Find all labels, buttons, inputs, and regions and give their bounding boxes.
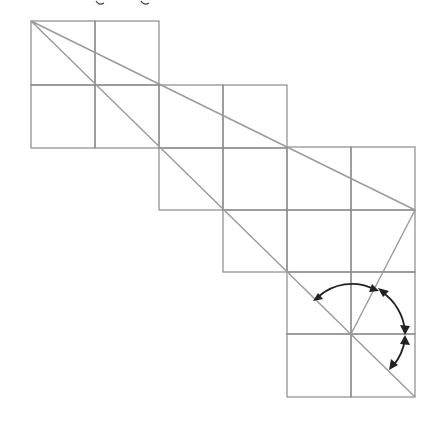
grid-cell: [351, 210, 415, 272]
main-diagonal-line: [31, 21, 415, 397]
grid-cell: [287, 210, 351, 272]
grid-cell: [287, 147, 351, 210]
grid-cell: [223, 148, 287, 210]
geometry-diagram: [0, 0, 434, 421]
grid-cell: [159, 148, 223, 210]
grid-cell: [31, 85, 95, 148]
grid-cell: [287, 334, 351, 397]
angle-marks: [313, 284, 410, 370]
grid-cell: [351, 147, 415, 210]
grid-cell: [95, 21, 159, 85]
angle-arc-2: [382, 292, 405, 331]
grid-cell: [95, 85, 159, 148]
grid-cell: [351, 272, 415, 334]
diagonal-lines: [31, 21, 415, 397]
arrowhead-icon: [369, 284, 379, 292]
arrowhead-icon: [400, 335, 410, 345]
cropped-caption-fragment: [96, 1, 149, 4]
grid-cell: [159, 85, 223, 148]
grid-cell: [223, 85, 287, 148]
angle-arc-1: [318, 284, 374, 297]
